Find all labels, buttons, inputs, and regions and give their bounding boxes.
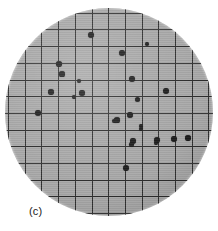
grid-line-horizontal [5, 29, 213, 30]
colony-dot [128, 113, 132, 117]
colony-dot [171, 136, 177, 142]
colony-dot [88, 32, 94, 38]
figure-panel: (c) [0, 0, 218, 231]
panel-label: (c) [29, 205, 42, 217]
grid-line-horizontal [5, 130, 213, 131]
grid-line-horizontal [5, 63, 213, 64]
grid-line-horizontal [5, 180, 213, 181]
membrane-filter-dish [5, 8, 213, 216]
colony-dot [72, 95, 75, 98]
colony-dot [163, 88, 169, 94]
colony-dot [129, 76, 135, 82]
colony-dot [123, 165, 129, 171]
colony-dot [139, 127, 143, 131]
colony-dot [129, 142, 134, 147]
grid-line-horizontal [5, 146, 213, 147]
colony-dot [48, 89, 54, 95]
grid-line-horizontal [5, 96, 213, 97]
colony-dot [77, 79, 82, 84]
grid-line-horizontal [5, 46, 213, 47]
grid-line-horizontal [5, 163, 213, 164]
grid-line-horizontal [5, 13, 213, 14]
colony-dot [56, 61, 62, 67]
colony-dot [135, 97, 140, 102]
colony-dot [35, 110, 41, 116]
colony-dot [79, 90, 84, 95]
grid-line-horizontal [5, 80, 213, 81]
colony-dot [59, 71, 64, 76]
colony-dot [114, 119, 118, 123]
colony-dot [185, 135, 191, 141]
grid-line-horizontal [5, 196, 213, 197]
